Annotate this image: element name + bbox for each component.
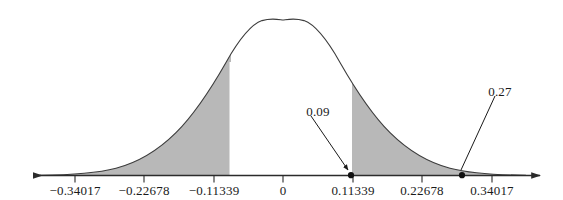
- x-tick-label: 0.34017: [470, 183, 514, 199]
- x-axis-ticks: [75, 176, 492, 183]
- marked-point-0-27: [459, 172, 465, 178]
- annotation-label-0-09: 0.09: [306, 104, 330, 120]
- x-tick-label: 0.22678: [400, 183, 444, 199]
- x-tick-label: −0.11339: [189, 183, 240, 199]
- left-tail-shaded-region: [40, 19, 283, 175]
- normal-curve: [40, 19, 526, 175]
- x-tick-label: 0.11339: [331, 183, 374, 199]
- distribution-plot: [0, 0, 563, 200]
- annotation-leader-0-27: [461, 96, 495, 170]
- x-tick-label: −0.22678: [118, 183, 169, 199]
- marked-point-0-09: [348, 172, 354, 178]
- annotation-label-0-27: 0.27: [488, 84, 512, 100]
- x-tick-label: 0: [280, 183, 287, 199]
- x-tick-label: −0.34017: [49, 183, 100, 199]
- normal-distribution-figure: −0.34017 −0.22678 −0.11339 0 0.11339 0.2…: [0, 0, 563, 200]
- annotation-leader-0-09: [311, 116, 348, 170]
